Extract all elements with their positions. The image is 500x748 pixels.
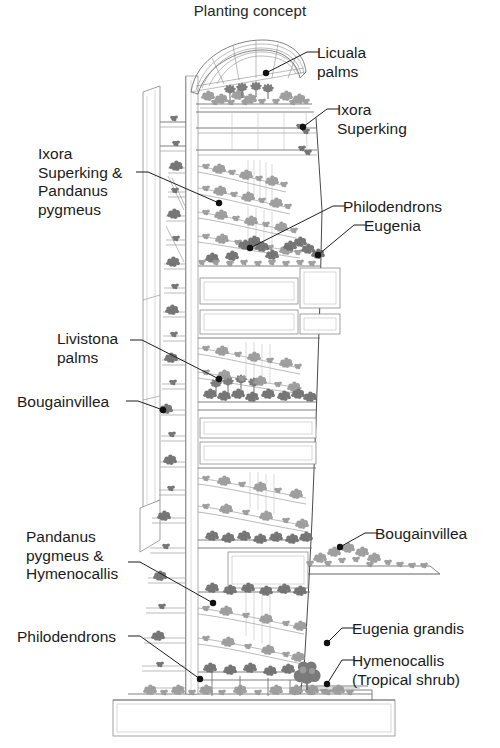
leader-dot-hymenocallis-tropical-shrub <box>324 681 330 687</box>
callout-label-philodendrons-upper: Philodendrons <box>343 198 442 217</box>
leader-dot-eugenia-grandis <box>324 640 330 646</box>
leader-dot-pandanus-pygmeus-hymenocallis <box>210 600 216 606</box>
leader-line-eugenia <box>318 225 366 255</box>
leader-dot-philodendrons-lower <box>197 676 203 682</box>
leader-dot-ixora-superking-pandanus-pygmeus <box>216 200 222 206</box>
leader-line-eugenia-grandis <box>327 628 354 643</box>
roof-garden-slab <box>196 104 314 112</box>
roof-canopy <box>191 40 306 94</box>
callout-label-eugenia: Eugenia <box>364 217 421 236</box>
sky-court-voids-mid <box>198 266 340 338</box>
leader-dot-licuala-palms <box>263 70 269 76</box>
leader-line-pandanus-pygmeus-hymenocallis <box>128 562 213 603</box>
callout-label-hymenocallis-tropical-shrub: Hymenocallis (Tropical shrub) <box>352 652 460 689</box>
leader-dot-bougainvillea-left <box>160 407 166 413</box>
callout-label-bougainvillea-left: Bougainvillea <box>17 393 109 412</box>
lower-cascade-structure <box>198 472 312 696</box>
ground-plinth <box>113 700 395 736</box>
leader-dot-eugenia <box>315 252 321 258</box>
leader-dot-livistona-palms <box>216 376 222 382</box>
callout-label-licuala-palms: Licuala palms <box>317 44 366 81</box>
vegetation-mid-shrub-row <box>198 259 316 266</box>
callout-label-livistona-palms: Livistona palms <box>57 330 118 367</box>
vegetation-podium-bougainvillea <box>306 543 428 569</box>
callout-label-ixora-superking-pandanus-pygmeus: Ixora Superking & Pandanus pygmeus <box>38 145 122 219</box>
podium-roof-terrace <box>300 566 440 574</box>
leader-dot-ixora-superking <box>300 124 306 130</box>
west-louvre-wall <box>140 86 160 552</box>
leader-dot-bougainvillea-right <box>337 544 343 550</box>
sky-court-voids-midlow <box>198 418 316 468</box>
callout-label-bougainvillea-right: Bougainvillea <box>375 525 467 544</box>
planting-concept-figure: Planting concept <box>0 0 500 748</box>
leader-line-hymenocallis-tropical-shrub <box>327 660 354 684</box>
callout-label-pandanus-pygmeus-hymenocallis: Pandanus pygmeus & Hymenocallis <box>26 528 118 584</box>
leader-dot-philodendrons-upper <box>247 245 253 251</box>
callout-label-ixora-superking: Ixora Superking <box>337 101 407 138</box>
callout-label-eugenia-grandis: Eugenia grandis <box>352 620 464 639</box>
figure-title: Planting concept <box>0 2 500 19</box>
vegetation-midlow-mass <box>203 389 317 402</box>
callout-label-philodendrons-lower: Philodendrons <box>17 628 116 647</box>
upper-floor-plates <box>160 112 317 155</box>
